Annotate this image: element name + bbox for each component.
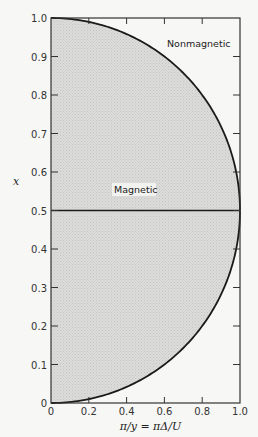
y-tick-label: 0.4	[31, 244, 47, 255]
y-tick-label: 0.2	[31, 321, 47, 332]
y-axis-title: x	[13, 175, 20, 188]
y-tick-label: 0	[41, 398, 47, 409]
x-tick-label: 1.0	[232, 406, 248, 417]
x-tick-label: 0.6	[156, 406, 172, 417]
magnetic-label: Magnetic	[114, 184, 158, 195]
plot-area: 00.20.40.60.81.000.10.20.30.40.50.60.70.…	[13, 13, 248, 433]
y-tick-label: 0.7	[31, 129, 47, 140]
x-axis-title: π/y = πΔ/U	[119, 420, 182, 433]
x-tick-label: 0	[48, 406, 54, 417]
y-tick-label: 0.6	[31, 167, 47, 178]
y-tick-label: 0.3	[31, 283, 47, 294]
x-tick-label: 0.8	[194, 406, 210, 417]
y-tick-label: 1.0	[31, 13, 47, 24]
x-tick-label: 0.4	[119, 406, 135, 417]
y-tick-label: 0.1	[31, 360, 47, 371]
y-tick-label: 0.9	[31, 52, 47, 63]
nonmagnetic-label: Nonmagnetic	[167, 38, 231, 49]
x-tick-label: 0.2	[81, 406, 97, 417]
y-tick-label: 0.8	[31, 90, 47, 101]
y-tick-label: 0.5	[31, 206, 47, 217]
phase-diagram-chart: 00.20.40.60.81.000.10.20.30.40.50.60.70.…	[0, 0, 258, 437]
